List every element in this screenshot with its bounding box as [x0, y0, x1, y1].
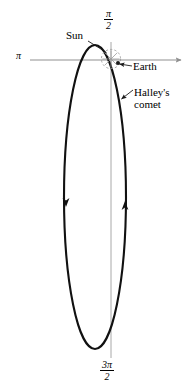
comet-leader-line — [122, 90, 134, 99]
orbit-diagram-canvas — [0, 0, 189, 388]
earth-icon — [116, 61, 120, 65]
label-angle-pi-over-2-numerator: π — [104, 9, 113, 19]
comet-orbit-ellipse — [64, 45, 126, 349]
label-angle-pi-over-2-denominator: 2 — [104, 19, 113, 31]
label-angle-3pi-over-2: 3π 2 — [100, 360, 114, 382]
label-halleys-comet: Halley's comet — [134, 86, 170, 111]
label-angle-3pi-over-2-denominator: 2 — [100, 370, 114, 382]
orbit-diagram-figure: π Sun Earth Halley's comet π 2 3π 2 — [0, 0, 189, 388]
label-angle-3pi-over-2-numerator: 3π — [100, 360, 114, 370]
label-angle-pi-over-2: π 2 — [104, 9, 113, 31]
sun-rays-icon — [102, 50, 119, 67]
label-earth: Earth — [133, 61, 157, 73]
label-angle-pi: π — [16, 51, 21, 62]
label-halleys-comet-line2: comet — [134, 98, 161, 110]
label-sun: Sun — [66, 30, 83, 42]
label-halleys-comet-line1: Halley's — [134, 86, 170, 98]
earth-leader-line — [120, 64, 133, 66]
